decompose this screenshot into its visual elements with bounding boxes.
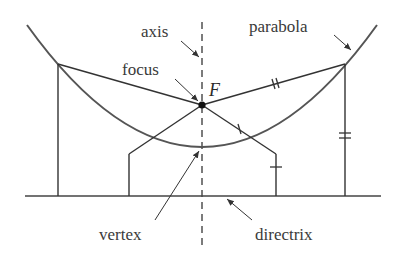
parabola-arrow	[334, 35, 351, 50]
focus-label: focus	[122, 60, 159, 79]
directrix-arrow	[227, 199, 252, 220]
focus-symbol: F	[208, 80, 221, 100]
focus-point	[198, 101, 205, 108]
parabola-diagram: axis focus F parabola vertex directrix	[0, 0, 399, 254]
vertex-label: vertex	[99, 225, 142, 244]
parabola-label: parabola	[249, 17, 308, 36]
directrix-label: directrix	[255, 225, 313, 244]
vertex-arrow	[155, 151, 199, 220]
axis-label: axis	[141, 22, 168, 41]
axis-arrow	[181, 41, 199, 57]
